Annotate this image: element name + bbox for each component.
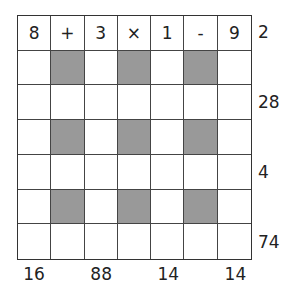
shaded-cell (118, 120, 151, 155)
grid-cell[interactable] (151, 190, 184, 225)
grid-cell[interactable] (218, 85, 251, 120)
grid-cell[interactable] (151, 224, 184, 259)
grid-cell[interactable] (218, 155, 251, 190)
grid-cell[interactable] (184, 85, 217, 120)
column-result: 88 (84, 264, 118, 284)
shaded-cell (51, 51, 84, 86)
grid-cell[interactable] (184, 155, 217, 190)
grid-cell[interactable] (118, 224, 151, 259)
grid-cell[interactable] (18, 51, 51, 86)
grid-cell[interactable] (151, 85, 184, 120)
column-result: 16 (17, 264, 51, 284)
grid-cell[interactable] (218, 120, 251, 155)
shaded-cell (184, 120, 217, 155)
grid-cell: 3 (85, 16, 118, 51)
shaded-cell (184, 51, 217, 86)
shaded-cell (51, 120, 84, 155)
grid-cell[interactable] (151, 155, 184, 190)
puzzle-grid: 8+3×1-9 (17, 15, 252, 260)
grid-cell: + (51, 16, 84, 51)
grid-cell[interactable] (85, 155, 118, 190)
grid-cell: × (118, 16, 151, 51)
row-result: 74 (258, 232, 280, 252)
shaded-cell (118, 51, 151, 86)
grid-cell[interactable] (51, 155, 84, 190)
row-result: 4 (258, 162, 269, 182)
shaded-cell (118, 190, 151, 225)
grid-cell[interactable] (184, 224, 217, 259)
grid-cell[interactable] (18, 85, 51, 120)
column-result: 14 (218, 264, 252, 284)
grid-cell[interactable] (18, 224, 51, 259)
grid-cell[interactable] (85, 120, 118, 155)
grid-cell[interactable] (218, 51, 251, 86)
grid-cell: - (184, 16, 217, 51)
grid-cell[interactable] (118, 155, 151, 190)
grid-cell[interactable] (85, 190, 118, 225)
grid-cell[interactable] (151, 51, 184, 86)
column-result: 14 (151, 264, 185, 284)
grid-cell[interactable] (85, 51, 118, 86)
grid-cell[interactable] (18, 155, 51, 190)
grid-cell[interactable] (51, 224, 84, 259)
grid-cell[interactable] (51, 85, 84, 120)
grid-cell[interactable] (18, 120, 51, 155)
grid-cell: 8 (18, 16, 51, 51)
grid-cell[interactable] (85, 85, 118, 120)
grid-cell[interactable] (151, 120, 184, 155)
row-result: 28 (258, 92, 280, 112)
grid-cell[interactable] (218, 190, 251, 225)
grid-cell: 1 (151, 16, 184, 51)
grid-cell[interactable] (85, 224, 118, 259)
row-result: 2 (258, 22, 269, 42)
shaded-cell (184, 190, 217, 225)
grid-cell[interactable] (218, 224, 251, 259)
shaded-cell (51, 190, 84, 225)
grid-cell[interactable] (118, 85, 151, 120)
grid-cell: 9 (218, 16, 251, 51)
grid-cell[interactable] (18, 190, 51, 225)
